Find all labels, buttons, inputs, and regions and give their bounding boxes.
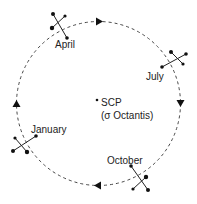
arrow-left-up-icon <box>13 100 21 107</box>
arrow-top-right-icon <box>96 18 103 26</box>
celestial-pole-diagram: SCP (σ Octantis) April July October Janu… <box>0 0 197 204</box>
arrow-bottom-left-icon <box>94 182 101 190</box>
month-label-july: July <box>146 71 164 82</box>
constellation-january <box>11 134 38 154</box>
constellation-october <box>129 164 150 192</box>
orbit-circle <box>17 22 181 186</box>
scp-point <box>96 99 99 102</box>
sigma-octantis-label: (σ Octantis) <box>101 110 153 121</box>
month-label-october: October <box>107 155 143 166</box>
constellation-july <box>160 50 188 69</box>
month-label-january: January <box>31 124 67 135</box>
month-label-april: April <box>55 39 75 50</box>
scp-label: SCP <box>101 97 122 108</box>
arrow-right-down-icon <box>177 100 185 107</box>
